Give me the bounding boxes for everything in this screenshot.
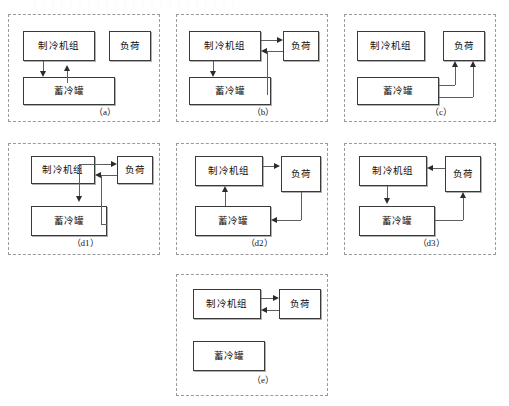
panel-d1-line-load-to-chiller (101, 175, 117, 176)
panel-c-line-tank-out-a (439, 85, 455, 86)
panel-d3-arrow-to-tank (384, 198, 390, 204)
panel-d2-line-load-down (301, 192, 302, 220)
panel-d1-arrow-to-tank (76, 196, 82, 202)
panel-b-line-return-riser (267, 51, 268, 95)
figure-canvas: 制冷机组 负荷 蓄冷罐 （a） 制冷机组 负荷 蓄冷罐 （b） 制冷机组 负荷 … (0, 0, 509, 406)
panel-c-tank-box: 蓄冷罐 (357, 77, 439, 105)
panel-e-arrow-to-load (273, 295, 279, 301)
panel-b-tank-box: 蓄冷罐 (189, 77, 271, 105)
panel-c-riser-a (455, 67, 456, 85)
panel-e: 制冷机组 负荷 蓄冷罐 （e） (176, 274, 328, 396)
panel-c-arrow-to-load-a (452, 61, 458, 67)
panel-d1-line-chiller-to-tank (79, 164, 80, 198)
panel-b-line-chiller-to-load (261, 40, 278, 41)
panel-d2-arrow-to-tank (271, 217, 277, 223)
panel-d1: 制冷机组 负荷 蓄冷罐 （d1） (8, 143, 160, 255)
panel-e-load-box: 负荷 (279, 289, 321, 319)
panel-d2-tank-box: 蓄冷罐 (195, 206, 271, 236)
panel-b-load-box: 负荷 (283, 31, 319, 61)
panel-a-tank-box: 蓄冷罐 (23, 77, 115, 105)
panel-c-arrow-to-load-b (470, 61, 476, 67)
panel-c-caption: （c） (417, 105, 465, 118)
panel-d2-load-box: 负荷 (281, 156, 321, 192)
panel-a-load-box: 负荷 (109, 31, 151, 61)
panel-c-chiller-box: 制冷机组 (357, 31, 425, 61)
panel-e-tank-box: 蓄冷罐 (193, 341, 265, 371)
scan-artifact (34, 2, 234, 8)
panel-e-arrow-to-chiller (261, 307, 267, 313)
panel-a-chiller-box: 制冷机组 (23, 31, 95, 61)
panel-a-line-tank-to-chiller (67, 71, 68, 83)
panel-b: 制冷机组 负荷 蓄冷罐 （b） (176, 14, 328, 122)
panel-d1-chiller-box: 制冷机组 (31, 156, 95, 184)
panel-d1-line-tank-outlet (101, 224, 107, 225)
panel-d3-line-load-to-chiller (433, 168, 445, 169)
panel-d3-riser-to-load (463, 198, 464, 220)
panel-e-line-load-to-chiller (267, 310, 279, 311)
panel-b-chiller-box: 制冷机组 (189, 31, 261, 61)
panel-d2-line-to-tank (277, 220, 301, 221)
panel-d3-arrow-to-load (460, 192, 466, 198)
panel-d1-caption: （d1） (61, 236, 109, 249)
panel-d2: 制冷机组 负荷 蓄冷罐 （d2） (176, 143, 328, 255)
panel-a: 制冷机组 负荷 蓄冷罐 （a） (8, 14, 160, 122)
panel-d1-riser-tank-return (101, 175, 102, 225)
panel-a-arrow-to-tank (40, 71, 46, 77)
panel-d1-line-chiller-to-load (95, 164, 112, 165)
panel-c: 制冷机组 负荷 蓄冷罐 （c） (344, 14, 496, 122)
panel-a-caption: （a） (81, 105, 129, 118)
panel-d3-tank-box: 蓄冷罐 (359, 206, 435, 236)
panel-b-caption: （b） (239, 105, 287, 118)
panel-b-arrow-to-tank (210, 71, 216, 77)
panel-c-load-box: 负荷 (443, 31, 485, 61)
panel-b-arrow-to-load (277, 37, 283, 43)
panel-d3: 制冷机组 负荷 蓄冷罐 （d3） (344, 143, 496, 255)
panel-d2-caption: （d2） (235, 236, 283, 249)
panel-d3-caption: （d3） (407, 236, 455, 249)
panel-d1-tank-box: 蓄冷罐 (31, 206, 107, 236)
panel-d2-arrow-to-chiller (222, 186, 228, 192)
panel-d2-line-tank-to-chiller (225, 192, 226, 206)
panel-d3-arrow-to-chiller (427, 165, 433, 171)
panel-d1-arrow-to-load (111, 161, 117, 167)
panel-d1-load-box: 负荷 (117, 156, 153, 184)
panel-a-arrow-to-chiller (64, 65, 70, 71)
panel-e-chiller-box: 制冷机组 (193, 289, 261, 319)
panel-c-riser-b (473, 67, 474, 97)
panel-d2-arrow-to-load (274, 163, 280, 169)
panel-d3-load-box: 负荷 (445, 156, 481, 192)
panel-b-line-load-to-chiller (267, 51, 283, 52)
panel-d3-line-tank-out (435, 220, 463, 221)
panel-c-line-tank-out-b (439, 97, 473, 98)
panel-e-caption: （e） (239, 373, 287, 386)
panel-d1-line-chiller-tap (79, 164, 95, 165)
panel-d2-chiller-box: 制冷机组 (195, 156, 263, 186)
panel-d3-chiller-box: 制冷机组 (359, 156, 427, 186)
